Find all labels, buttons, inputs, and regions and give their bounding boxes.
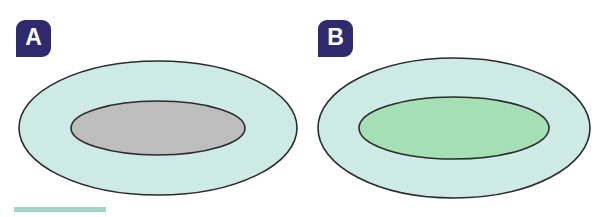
- panel-label-b: B: [318, 20, 353, 57]
- panel-b: B: [304, 0, 608, 217]
- accent-bar: [14, 207, 106, 212]
- panel-label-a: A: [16, 20, 51, 57]
- inner-ellipse-b: [359, 97, 549, 159]
- figure-container: A B: [0, 0, 608, 217]
- inner-ellipse-a: [71, 101, 245, 155]
- panel-a: A: [0, 0, 304, 217]
